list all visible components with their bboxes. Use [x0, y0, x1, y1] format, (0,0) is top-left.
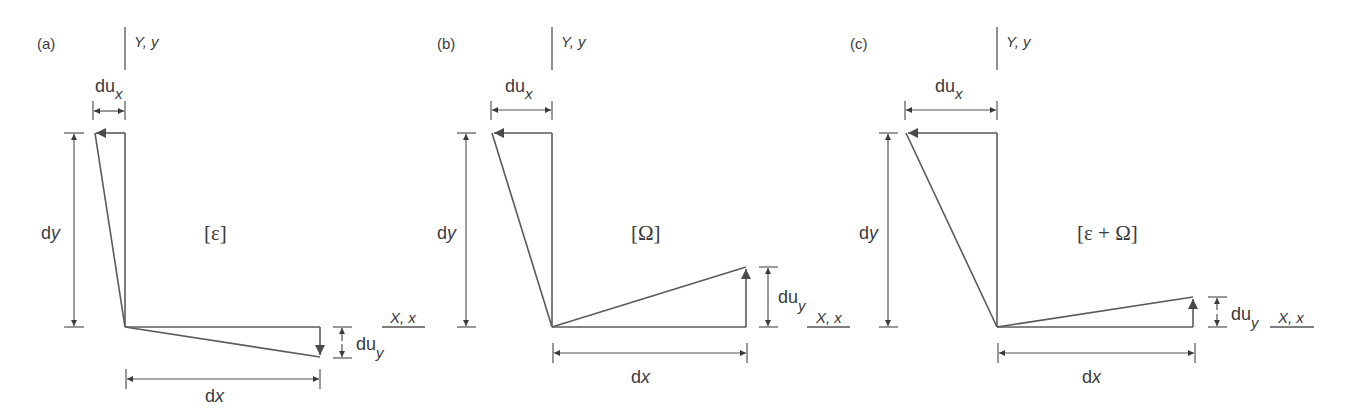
x-axis-label: X, x	[815, 309, 842, 326]
du-x-label: dux	[505, 76, 533, 102]
tensor-label-strain-plus-rotation: [ε + Ω]	[1077, 221, 1138, 245]
y-axis-label: Y, y	[1006, 33, 1032, 50]
x-axis-label: X, x	[1277, 309, 1304, 326]
panel-c: (c) Y, y dux dy [ε + Ω] duy X, x dx	[850, 27, 1314, 387]
deformed-horizontal-edge	[125, 327, 320, 357]
du-y-label: duy	[778, 287, 807, 314]
dx-label: dx	[1082, 367, 1102, 387]
displacement-gradient-figure: (a) Y, y dux dy [ε] duy X, x	[0, 0, 1353, 419]
tensor-label-strain: [ε]	[204, 221, 227, 245]
panel-label-b: (b)	[437, 35, 455, 52]
dx-label: dx	[631, 367, 651, 387]
x-axis-label: X, x	[389, 309, 416, 326]
dx-label: dx	[205, 386, 225, 406]
deformed-vertical-edge	[95, 133, 125, 327]
panel-b: (b) Y, y dux dy [Ω] duy X, x dx	[437, 27, 850, 387]
y-axis-label: Y, y	[134, 33, 160, 50]
y-axis-label: Y, y	[561, 33, 587, 50]
tensor-label-rotation: [Ω]	[631, 221, 661, 245]
dy-label: dy	[859, 223, 879, 243]
du-x-label: dux	[935, 76, 963, 102]
du-y-label: duy	[1231, 304, 1260, 331]
du-y-label: duy	[356, 334, 385, 361]
du-x-label: dux	[95, 76, 123, 102]
dy-label: dy	[437, 223, 457, 243]
deformed-vertical-edge	[906, 133, 997, 327]
deformed-horizontal-edge	[997, 297, 1193, 327]
panel-label-c: (c)	[850, 35, 868, 52]
panel-label-a: (a)	[37, 35, 55, 52]
deformed-horizontal-edge	[552, 267, 746, 327]
panel-a: (a) Y, y dux dy [ε] duy X, x	[37, 27, 425, 406]
dy-label: dy	[41, 223, 61, 243]
deformed-vertical-edge	[492, 133, 552, 327]
